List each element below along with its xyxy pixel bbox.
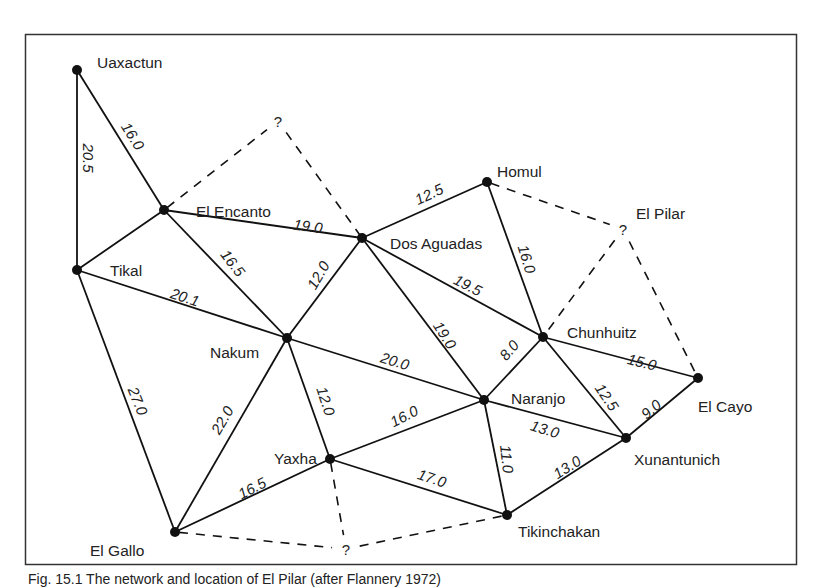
distance-label: 20.5 bbox=[80, 142, 97, 173]
site-label-chunhuitz: Chunhuitz bbox=[567, 324, 637, 341]
site-node-dos-aguadas bbox=[357, 233, 367, 243]
site-node-xunantunich bbox=[621, 433, 631, 443]
site-node-yaxha bbox=[325, 454, 335, 464]
distance-label: 20.1 bbox=[168, 284, 202, 310]
route-yaxha-tikinchakan bbox=[330, 459, 507, 515]
route-dos-aguadas-nakum bbox=[287, 238, 362, 338]
dashed-route-el-encanto-q-north bbox=[167, 130, 267, 208]
site-label-el-pilar: El Pilar bbox=[636, 205, 685, 222]
site-label-uaxactun: Uaxactun bbox=[97, 54, 162, 71]
unknown-site-marker: ? bbox=[274, 113, 282, 130]
distance-label: 20.0 bbox=[378, 348, 412, 373]
distance-label: 12.5 bbox=[412, 180, 446, 208]
site-node-el-cayo bbox=[693, 373, 703, 383]
distance-label: 13.0 bbox=[550, 452, 584, 482]
site-node-tikinchakan bbox=[502, 510, 512, 520]
dashed-route-q-el-pilar-chunhuitz bbox=[545, 240, 614, 334]
site-label-tikinchakan: Tikinchakan bbox=[518, 523, 600, 540]
distance-label: 15.0 bbox=[626, 350, 659, 374]
route-nakum-el-gallo bbox=[175, 338, 287, 532]
dashed-route-el-gallo-q-south bbox=[179, 532, 332, 547]
site-label-xunantunich: Xunantunich bbox=[634, 451, 720, 468]
distance-label: 16.0 bbox=[118, 119, 148, 153]
site-node-tikal bbox=[72, 265, 82, 275]
site-label-nakum: Nakum bbox=[210, 344, 259, 361]
network-diagram: 20.516.019.016.520.112.012.519.516.019.0… bbox=[0, 0, 823, 588]
distance-label: 8.0 bbox=[496, 336, 523, 363]
route-uaxactun-el-encanto bbox=[77, 70, 164, 210]
site-node-homul bbox=[482, 177, 492, 187]
distance-label: 12.0 bbox=[313, 384, 338, 418]
unknown-site-marker: ? bbox=[342, 541, 350, 558]
dashed-route-homul-q-el-pilar bbox=[491, 183, 610, 224]
distance-label: 27.0 bbox=[124, 383, 151, 418]
distance-labels: 20.516.019.016.520.112.012.519.516.019.0… bbox=[80, 119, 665, 502]
distance-label: 9.0 bbox=[638, 395, 665, 422]
site-label-tikal: Tikal bbox=[110, 262, 142, 279]
site-node-el-encanto bbox=[159, 205, 169, 215]
distance-label: 16.5 bbox=[217, 246, 249, 280]
site-node-uaxactun bbox=[72, 65, 82, 75]
site-label-dos-aguadas: Dos Aguadas bbox=[390, 235, 482, 252]
dashed-route-q-south-tikinchakan bbox=[360, 516, 503, 546]
site-label-yaxha: Yaxha bbox=[274, 450, 317, 467]
dashed-route-yaxha-q-south bbox=[331, 463, 344, 535]
site-node-el-gallo bbox=[170, 527, 180, 537]
site-node-naranjo bbox=[479, 395, 489, 405]
site-label-el-gallo: El Gallo bbox=[90, 542, 144, 559]
route-tikal-el-gallo bbox=[77, 270, 175, 532]
distance-label: 12.0 bbox=[303, 258, 333, 292]
site-label-homul: Homul bbox=[497, 163, 542, 180]
distance-label: 12.5 bbox=[592, 380, 623, 414]
site-node-nakum bbox=[282, 333, 292, 343]
distance-label: 11.0 bbox=[497, 444, 517, 474]
site-label-el-cayo: El Cayo bbox=[698, 398, 752, 415]
route-dos-aguadas-chunhuitz bbox=[362, 238, 543, 337]
site-label-el-encanto: El Encanto bbox=[196, 203, 271, 220]
route-chunhuitz-el-cayo bbox=[543, 337, 698, 378]
unknown-site-marker: ? bbox=[619, 221, 627, 238]
distance-label: 16.5 bbox=[235, 474, 269, 503]
figure-caption: Fig. 15.1 The network and location of El… bbox=[28, 571, 441, 587]
site-nodes bbox=[72, 65, 703, 537]
distance-label: 19.0 bbox=[292, 216, 324, 237]
site-node-chunhuitz bbox=[538, 332, 548, 342]
route-dos-aguadas-naranjo bbox=[362, 238, 484, 400]
site-label-naranjo: Naranjo bbox=[511, 390, 565, 407]
